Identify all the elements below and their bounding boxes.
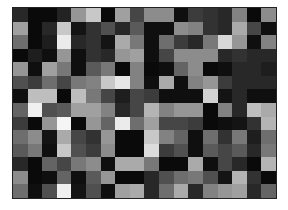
heatmap-cell [42,22,57,36]
heatmap-cell [232,171,247,185]
heatmap-cell [203,8,218,22]
heatmap-cell [247,117,262,131]
heatmap-cell [247,144,262,158]
heatmap-cell [261,76,276,90]
heatmap-cell [188,157,203,171]
heatmap-cell [159,22,174,36]
heatmap-cell [130,157,145,171]
heatmap-cell [203,171,218,185]
heatmap-cell [13,35,28,49]
heatmap-cell [203,35,218,49]
heatmap-cell [42,8,57,22]
heatmap-cell [86,171,101,185]
heatmap-figure [0,0,288,210]
heatmap-cell [71,117,86,131]
heatmap-cell [188,144,203,158]
heatmap-cell [232,62,247,76]
heatmap-cell [13,89,28,103]
heatmap-cell [115,35,130,49]
heatmap-cell [159,49,174,63]
heatmap-cell [144,130,159,144]
heatmap-cell [159,76,174,90]
heatmap-cell [203,130,218,144]
heatmap-cell [174,35,189,49]
heatmap-cell [86,76,101,90]
heatmap-cell [28,8,43,22]
heatmap-cell [188,117,203,131]
heatmap-cell [218,35,233,49]
heatmap-cell [13,144,28,158]
heatmap-cell [42,103,57,117]
heatmap-cell [218,157,233,171]
heatmap-cell [42,171,57,185]
heatmap-cell [101,103,116,117]
heatmap-cell [71,89,86,103]
heatmap-cell [174,62,189,76]
heatmap-cell [130,171,145,185]
heatmap-cell [203,22,218,36]
heatmap-cell [159,35,174,49]
heatmap-cell [71,103,86,117]
heatmap-cell [71,184,86,198]
heatmap-cell [159,130,174,144]
heatmap-cell [101,171,116,185]
heatmap-cell [174,157,189,171]
heatmap-cell [13,171,28,185]
heatmap-cell [232,8,247,22]
heatmap-cell [57,8,72,22]
heatmap-cell [203,103,218,117]
heatmap-cell [57,144,72,158]
heatmap-cell [130,117,145,131]
heatmap-cell [130,8,145,22]
heatmap-cell [28,62,43,76]
heatmap-cell [101,144,116,158]
heatmap-cell [86,62,101,76]
heatmap-cell [13,103,28,117]
heatmap-cell [188,62,203,76]
heatmap-cell [203,49,218,63]
heatmap-cell [232,35,247,49]
heatmap-cell [28,130,43,144]
heatmap-cell [28,171,43,185]
heatmap-cell [28,89,43,103]
heatmap-cell [159,103,174,117]
heatmap-cell [28,22,43,36]
heatmap-cell [261,171,276,185]
heatmap-cell [101,117,116,131]
heatmap-cell [261,117,276,131]
heatmap-cell [86,22,101,36]
heatmap-cell [71,144,86,158]
heatmap-cell [144,62,159,76]
heatmap-cell [261,22,276,36]
heatmap-cell [144,76,159,90]
heatmap-cell [130,89,145,103]
heatmap-cell [203,184,218,198]
heatmap-cell [203,157,218,171]
heatmap-cell [57,171,72,185]
heatmap-cell [247,89,262,103]
heatmap-cell [261,35,276,49]
heatmap-cell [174,184,189,198]
heatmap-cell [115,22,130,36]
heatmap-cell [232,117,247,131]
heatmap-cell [86,184,101,198]
heatmap-cell [71,62,86,76]
heatmap-cell [86,144,101,158]
heatmap-cell [232,157,247,171]
heatmap-cell [71,8,86,22]
heatmap-cell [247,171,262,185]
heatmap-cell [115,49,130,63]
heatmap-grid [12,7,277,199]
heatmap-cell [57,117,72,131]
heatmap-cell [218,171,233,185]
heatmap-cell [218,144,233,158]
heatmap-cell [218,130,233,144]
heatmap-cell [115,8,130,22]
heatmap-cell [115,157,130,171]
heatmap-cell [218,184,233,198]
heatmap-cell [247,157,262,171]
heatmap-cell [261,184,276,198]
heatmap-cell [57,49,72,63]
heatmap-cell [86,157,101,171]
heatmap-cell [13,157,28,171]
